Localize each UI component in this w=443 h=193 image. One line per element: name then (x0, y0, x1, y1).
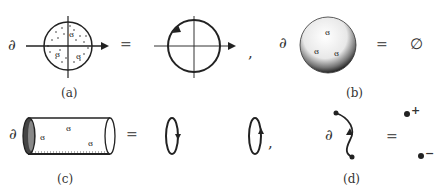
svg-text:ɞ: ɞ (334, 49, 339, 58)
caption-d: (d) (343, 172, 360, 186)
boundary-operator-a: ∂ (8, 36, 16, 54)
equals-c: = (126, 126, 138, 142)
comma-c: , (268, 134, 273, 152)
empty-set: ∅ (410, 35, 423, 53)
svg-text:ɞ: ɞ (88, 139, 93, 148)
boundary-operator-b: ∂ (279, 34, 287, 52)
caption-c: (c) (57, 172, 73, 186)
svg-text:ɞ: ɞ (325, 28, 330, 37)
arrow-up-icon (258, 128, 264, 134)
equals-a: = (120, 36, 132, 52)
boundary-operator-d: ∂ (325, 126, 333, 144)
equals-d: = (386, 128, 398, 144)
svg-text:ɞ: ɞ (314, 47, 319, 56)
svg-text:ɞ: ɞ (40, 133, 45, 142)
oriented-ellipse-up (249, 118, 261, 154)
minus-sign: − (425, 147, 434, 160)
svg-text:ɞ: ɞ (76, 52, 81, 61)
sphere-icon (300, 17, 356, 73)
boundary-operator-c: ∂ (9, 125, 17, 143)
comma-a: , (248, 44, 253, 62)
equals-b: = (376, 36, 388, 52)
arrow-right-icon (101, 42, 109, 50)
arrow-down-icon (175, 134, 181, 140)
svg-text:ɞ: ɞ (66, 124, 71, 133)
svg-text:ɞ: ɞ (69, 30, 74, 39)
arrow-right-icon (228, 42, 236, 50)
caption-a: (a) (61, 86, 78, 100)
plus-sign: + (411, 104, 420, 117)
caption-b: (b) (346, 86, 363, 100)
point-minus (418, 153, 424, 159)
svg-text:ɞ: ɞ (55, 50, 60, 59)
cylinder-icon: ɞ ɞ ɞ (23, 118, 115, 154)
point-plus (404, 111, 410, 117)
